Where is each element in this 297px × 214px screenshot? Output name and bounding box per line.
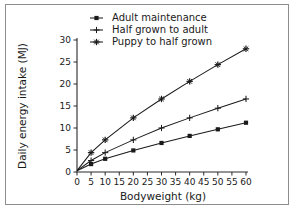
x-tick-label: 0 <box>74 177 80 187</box>
marker-plus <box>215 105 221 111</box>
x-tick-label: 15 <box>114 177 125 187</box>
legend-label: Half grown to adult <box>112 24 208 35</box>
marker-star-plus <box>88 149 94 155</box>
data-series <box>77 46 249 171</box>
x-tick-labels: 051015202530354045505560 <box>74 177 252 187</box>
marker-star-plus <box>186 78 192 84</box>
legend: Adult maintenanceHalf grown to adultPupp… <box>90 12 212 47</box>
y-tick-label: 5 <box>65 145 71 155</box>
marker-plus <box>102 150 108 156</box>
marker-filled-square <box>216 127 220 131</box>
x-tick-label: 45 <box>198 177 209 187</box>
x-tick-label: 50 <box>212 177 224 187</box>
legend-item[interactable]: Half grown to adult <box>90 24 208 35</box>
y-axis-title: Daily energy intake (MJ) <box>16 43 28 169</box>
marker-plus <box>187 115 193 121</box>
legend-item[interactable]: Adult maintenance <box>90 12 207 23</box>
legend-label: Puppy to half grown <box>112 36 212 47</box>
marker-star-plus <box>158 96 164 102</box>
marker-filled-square <box>103 157 107 161</box>
marker-star-plus <box>215 61 221 67</box>
legend-item[interactable]: Puppy to half grown <box>90 36 212 47</box>
x-tick-label: 35 <box>170 177 181 187</box>
x-tick-label: 5 <box>88 177 94 187</box>
x-tick-label: 40 <box>184 177 196 187</box>
marker-plus <box>243 96 249 102</box>
y-tick-labels: 051015202530 <box>60 35 72 177</box>
y-tick-label: 15 <box>60 101 71 111</box>
series-2 <box>77 46 249 171</box>
marker-star-plus <box>243 46 249 52</box>
x-tick-label: 25 <box>142 177 153 187</box>
y-tick-label: 20 <box>60 79 72 89</box>
marker-filled-square <box>131 148 135 152</box>
chart-canvas: 051015202530354045505560 051015202530 Bo… <box>0 0 297 214</box>
legend-label: Adult maintenance <box>112 12 207 23</box>
x-tick-label: 55 <box>226 177 237 187</box>
marker-filled-square <box>188 134 192 138</box>
marker-plus <box>130 137 136 143</box>
marker-filled-square <box>159 141 163 145</box>
y-tick-label: 25 <box>60 57 71 67</box>
x-axis-title: Bodyweight (kg) <box>120 190 206 202</box>
marker-star-plus <box>93 39 99 45</box>
x-tick-label: 60 <box>240 177 252 187</box>
marker-star-plus <box>130 115 136 121</box>
marker-star-plus <box>102 137 108 143</box>
x-tick-label: 10 <box>99 177 111 187</box>
x-tick-label: 30 <box>156 177 168 187</box>
marker-plus <box>158 125 164 131</box>
axis-lines <box>77 38 248 172</box>
marker-plus <box>93 27 99 33</box>
y-tick-label: 10 <box>60 123 72 133</box>
marker-filled-square <box>94 16 98 20</box>
marker-filled-square <box>244 121 248 125</box>
x-tick-label: 20 <box>128 177 140 187</box>
y-tick-label: 30 <box>60 35 72 45</box>
y-tick-label: 0 <box>65 167 71 177</box>
